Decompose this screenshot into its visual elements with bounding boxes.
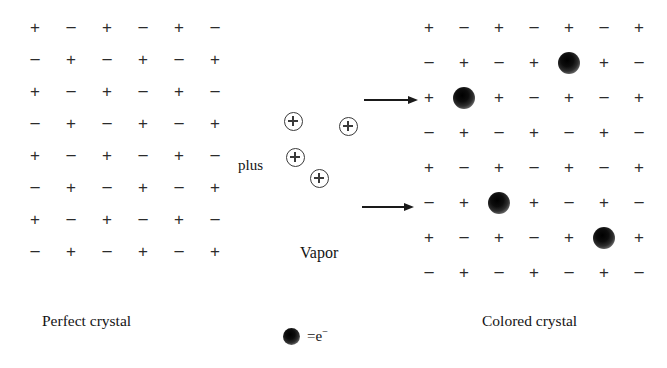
colored-crystal-cation: + [626, 225, 652, 251]
colored-crystal-anion: − [521, 85, 547, 111]
colored-crystal-cation: + [591, 120, 617, 146]
legend-electron-icon [283, 328, 300, 345]
vapor-cation-icon [286, 148, 305, 167]
colored-crystal-anion: − [591, 155, 617, 181]
colored-crystal-anion: − [591, 85, 617, 111]
colored-crystal-anion: − [521, 15, 547, 41]
colored-crystal-cation: + [591, 50, 617, 76]
colored-crystal-cation: + [416, 15, 442, 41]
plus-word-label: plus [238, 157, 263, 174]
colored-crystal-anion: − [486, 260, 512, 286]
arrow-shaft [364, 99, 409, 101]
colored-crystal-cation: + [451, 260, 477, 286]
colored-crystal-cation: + [556, 155, 582, 181]
colored-crystal-anion: − [521, 155, 547, 181]
colored-crystal-cation: + [521, 190, 547, 216]
colored-crystal-anion: − [486, 50, 512, 76]
vapor-cation-icon [284, 112, 303, 131]
colored-crystal-anion: − [416, 260, 442, 286]
legend-label: =e− [307, 326, 328, 345]
colored-crystal-cation: + [416, 85, 442, 111]
colored-crystal-electron [558, 52, 580, 74]
colored-crystal-cation: + [626, 155, 652, 181]
perfect-crystal-caption: Perfect crystal [42, 312, 131, 330]
colored-crystal-cation: + [451, 190, 477, 216]
colored-crystal-cation: + [556, 225, 582, 251]
colored-crystal-caption: Colored crystal [482, 312, 577, 330]
arrow-shaft [362, 206, 405, 208]
colored-crystal-anion: − [626, 120, 652, 146]
colored-crystal-cation: + [521, 120, 547, 146]
reaction-arrow-1-icon [364, 94, 418, 106]
colored-crystal-cation: + [486, 155, 512, 181]
colored-crystal-anion: − [626, 50, 652, 76]
vapor-label: Vapor [300, 244, 338, 262]
colored-crystal-cation: + [521, 50, 547, 76]
colored-crystal-cation: + [556, 85, 582, 111]
colored-crystal-cation: + [486, 85, 512, 111]
colored-crystal-cation: + [626, 85, 652, 111]
colored-crystal-anion: − [416, 50, 442, 76]
colored-crystal-cation: + [556, 15, 582, 41]
colored-crystal-anion: − [556, 190, 582, 216]
colored-crystal-anion: − [416, 120, 442, 146]
colored-crystal-electron [453, 87, 475, 109]
legend-charge-sign: − [322, 326, 328, 337]
colored-crystal-electron [488, 192, 510, 214]
colored-crystal-anion: − [486, 120, 512, 146]
colored-crystal-electron [593, 227, 615, 249]
vapor-cation-icon [339, 117, 358, 136]
arrow-head [408, 96, 418, 104]
colored-crystal-cation: + [521, 260, 547, 286]
colored-crystal-anion: − [556, 120, 582, 146]
colored-crystal-cation: + [626, 15, 652, 41]
vapor-cation-icon [310, 169, 329, 188]
colored-crystal-anion: − [626, 190, 652, 216]
colored-crystal-cation: + [416, 225, 442, 251]
reaction-arrow-2-icon [362, 201, 414, 213]
color-center-diagram: +−+−+−−+−+−++−+−+−−+−+−++−+−+−−+−+−++−+−… [0, 0, 667, 368]
colored-crystal-anion: − [416, 190, 442, 216]
colored-crystal-anion: − [451, 15, 477, 41]
colored-crystal-anion: − [521, 225, 547, 251]
colored-crystal-cation: + [486, 15, 512, 41]
colored-crystal-anion: − [626, 260, 652, 286]
colored-crystal-cation: + [451, 120, 477, 146]
colored-crystal-cation: + [591, 190, 617, 216]
colored-crystal-cation: + [486, 225, 512, 251]
colored-crystal-cation: + [416, 155, 442, 181]
colored-crystal-cation: + [591, 260, 617, 286]
colored-crystal-anion: − [451, 155, 477, 181]
colored-crystal-cation: + [451, 50, 477, 76]
colored-crystal-anion: − [451, 225, 477, 251]
colored-crystal-anion: − [591, 15, 617, 41]
colored-crystal-anion: − [556, 260, 582, 286]
arrow-head [404, 203, 414, 211]
